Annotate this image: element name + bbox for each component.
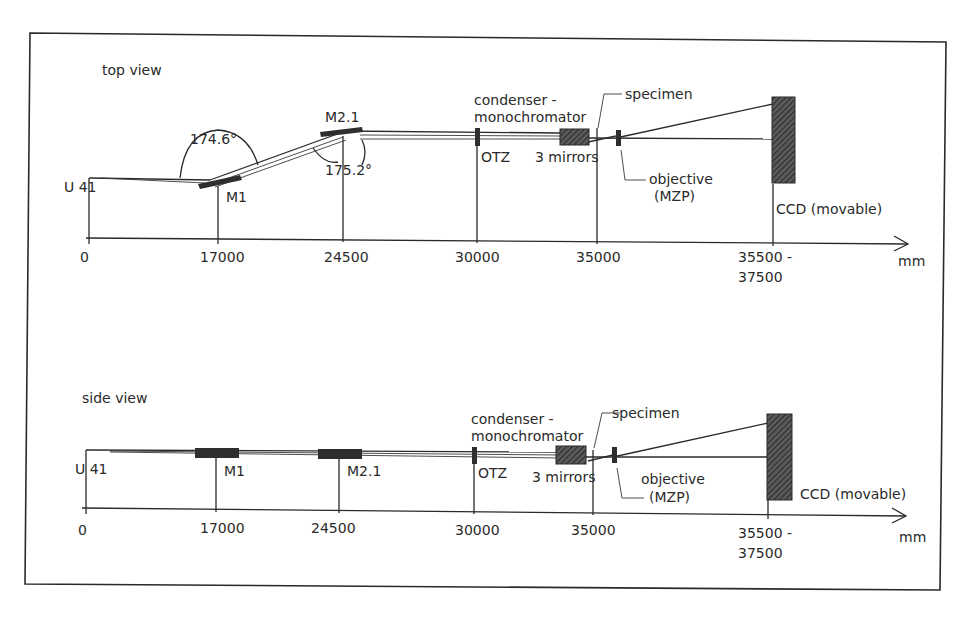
top-mirrors-label: 3 mirrors	[535, 149, 598, 165]
side-units-label: mm	[899, 529, 926, 545]
top-view-title: top view	[102, 62, 162, 78]
top-condenser-label-1: condenser -	[474, 92, 557, 108]
side-tick-37500: 37500	[738, 545, 783, 561]
top-ccd-label: CCD (movable)	[776, 201, 882, 217]
top-tick-35000: 35000	[576, 249, 621, 265]
top-m1-mirror	[198, 175, 242, 189]
top-axis-line	[86, 238, 908, 244]
top-angle-1-label: 174.6°	[190, 131, 237, 147]
top-view: top view U 41 M1	[64, 62, 925, 285]
top-objective-element	[616, 130, 621, 146]
side-ccd-label: CCD (movable)	[800, 486, 906, 502]
side-beam-segment	[613, 423, 768, 457]
side-view: side view U 41 M1 M2.1 condenser - monoc…	[75, 390, 926, 561]
side-m21-label: M2.1	[347, 463, 381, 479]
side-condenser-label-2: monochromator	[471, 428, 583, 444]
side-tick-0: 0	[78, 522, 87, 538]
side-otz-element	[472, 447, 477, 464]
side-objective-label-2: (MZP)	[649, 489, 690, 505]
top-tick-0: 0	[80, 249, 89, 265]
side-tick-35500: 35500 -	[738, 525, 792, 541]
top-condenser-label-2: monochromator	[474, 109, 586, 125]
top-tick-37500: 37500	[738, 269, 783, 285]
side-axis-line	[82, 508, 906, 516]
side-view-title: side view	[82, 390, 147, 406]
side-ccd-detector	[767, 414, 792, 500]
top-specimen-leader	[598, 94, 622, 128]
top-beam-segment	[616, 104, 773, 138]
side-condenser-mirrors	[556, 446, 586, 464]
side-m1-mirror	[195, 448, 239, 458]
top-objective-leader	[621, 150, 646, 180]
top-units-label: mm	[898, 253, 925, 269]
top-ccd-detector	[772, 97, 795, 183]
side-tick-24500: 24500	[311, 520, 356, 536]
top-beam-segment	[588, 138, 773, 139]
top-objective-label-2: (MZP)	[654, 188, 695, 204]
top-beam-segment	[345, 131, 560, 133]
top-beam-segment	[588, 136, 616, 142]
side-specimen-label: specimen	[612, 405, 680, 421]
side-tick-35000: 35000	[571, 522, 616, 538]
side-tick-30000: 30000	[455, 522, 500, 538]
top-m1-label: M1	[226, 189, 247, 205]
top-condenser-mirrors	[560, 129, 589, 145]
side-source-label: U 41	[75, 461, 108, 477]
top-angle-2-label: 175.2°	[325, 162, 372, 178]
top-tick-24500: 24500	[324, 249, 369, 265]
beamline-diagram: top view U 41 M1	[0, 0, 973, 621]
top-beam-segment	[360, 135, 560, 136]
top-m21-label: M2.1	[325, 109, 359, 125]
top-source-label: U 41	[64, 179, 97, 195]
side-mirrors-label: 3 mirrors	[532, 469, 595, 485]
top-m21-mirror	[320, 127, 363, 137]
top-tick-30000: 30000	[455, 249, 500, 265]
top-specimen-label: specimen	[625, 86, 693, 102]
top-otz-element	[475, 128, 480, 146]
top-otz-label: OTZ	[481, 149, 510, 165]
side-beam-segment	[588, 455, 613, 461]
side-m1-label: M1	[224, 463, 245, 479]
side-condenser-label-1: condenser -	[471, 411, 554, 427]
top-tick-35500: 35500 -	[738, 249, 792, 265]
side-objective-leader	[617, 468, 644, 498]
side-m21-mirror	[318, 449, 362, 459]
side-otz-label: OTZ	[478, 465, 507, 481]
side-objective-element	[612, 447, 617, 463]
side-tick-17000: 17000	[200, 520, 245, 536]
side-objective-label-1: objective	[641, 471, 705, 487]
top-objective-label-1: objective	[649, 171, 713, 187]
top-tick-17000: 17000	[200, 249, 245, 265]
